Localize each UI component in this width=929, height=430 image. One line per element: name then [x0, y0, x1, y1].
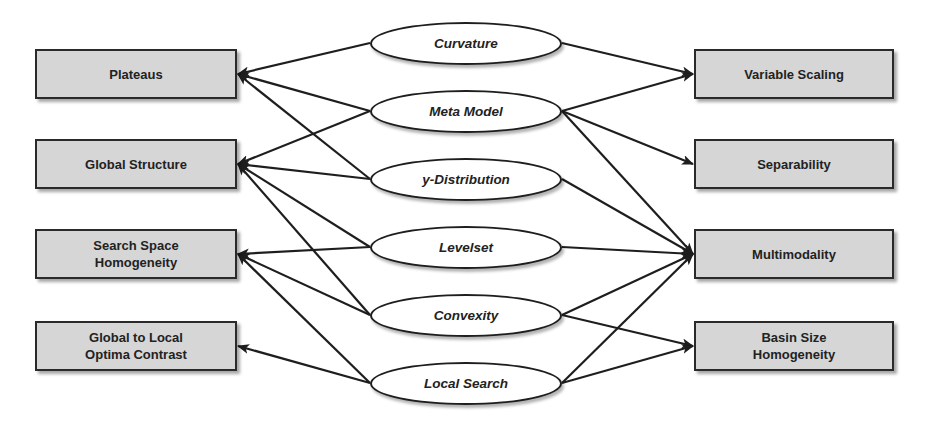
edge-arrow [562, 247, 693, 254]
node-convexity: Convexity [370, 294, 562, 337]
feature-dependency-diagram: Plateaus Global Structure Search Space H… [0, 0, 929, 430]
edge-arrow [238, 74, 370, 179]
edge-arrow [238, 111, 370, 164]
edge-arrow [562, 179, 693, 254]
node-basin-size-homogeneity: Basin Size Homogeneity [694, 321, 894, 371]
node-variable-scaling: Variable Scaling [694, 49, 894, 99]
node-y-distribution: y-Distribution [370, 158, 562, 201]
node-multimodality: Multimodality [694, 229, 894, 279]
node-separability: Separability [694, 139, 894, 189]
node-global-to-local-optima-contrast: Global to Local Optima Contrast [35, 321, 237, 371]
edge-arrow [238, 254, 370, 315]
edge-arrow [562, 111, 693, 254]
edge-arrow [238, 74, 370, 111]
edge-arrow [238, 164, 370, 315]
node-meta-model: Meta Model [370, 90, 562, 133]
edge-arrow [562, 74, 693, 111]
node-plateaus: Plateaus [35, 49, 237, 99]
edge-arrow [562, 43, 693, 74]
node-search-space-homogeneity: Search Space Homogeneity [35, 229, 237, 279]
edge-arrow [238, 247, 370, 254]
edge-arrow [562, 111, 693, 164]
edge-arrow [238, 43, 370, 74]
node-curvature: Curvature [370, 22, 562, 65]
edge-arrow [562, 254, 693, 315]
node-local-search: Local Search [370, 362, 562, 405]
node-levelset: Levelset [370, 226, 562, 269]
node-global-structure: Global Structure [35, 139, 237, 189]
